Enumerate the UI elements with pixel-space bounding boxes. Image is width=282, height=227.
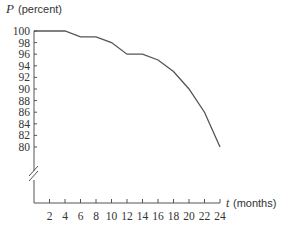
x-tick-label: 4	[62, 210, 68, 222]
x-tick-label: 8	[93, 210, 99, 222]
y-tick-label: 90	[19, 83, 31, 95]
x-tick-label: 12	[121, 210, 133, 222]
x-axis-unit: (months)	[233, 197, 276, 209]
y-tick-label: 98	[19, 37, 31, 49]
axes	[29, 31, 220, 203]
y-axis-label: P (percent)	[5, 1, 62, 16]
y-axis-unit: (percent)	[18, 3, 62, 15]
line-chart: P (percent) 10098969492908886848280 2468…	[0, 0, 282, 227]
y-tick-label: 100	[13, 25, 31, 37]
y-tick-label: 96	[19, 48, 31, 60]
x-tick-label: 20	[183, 210, 195, 222]
axis-break-mark	[29, 171, 38, 181]
x-ticks: 24681012141618202224	[47, 199, 226, 222]
y-tick-label: 94	[19, 60, 31, 72]
x-axis-label: t (months)	[226, 196, 276, 210]
y-tick-label: 86	[19, 106, 31, 118]
y-tick-label: 84	[19, 118, 31, 130]
x-tick-label: 24	[214, 210, 226, 222]
y-tick-label: 82	[19, 129, 31, 141]
x-tick-label: 10	[106, 210, 118, 222]
x-axis-variable: t	[226, 196, 230, 210]
x-tick-label: 6	[78, 210, 84, 222]
y-axis-variable: P	[5, 1, 14, 16]
data-line	[34, 31, 220, 147]
x-tick-label: 14	[137, 210, 149, 222]
y-ticks: 10098969492908886848280	[13, 25, 37, 153]
x-tick-label: 2	[47, 210, 53, 222]
x-tick-label: 18	[168, 210, 180, 222]
x-tick-label: 16	[152, 210, 164, 222]
y-tick-label: 88	[19, 95, 31, 107]
y-tick-label: 80	[19, 141, 31, 153]
y-tick-label: 92	[19, 71, 31, 83]
x-tick-label: 22	[199, 210, 211, 222]
